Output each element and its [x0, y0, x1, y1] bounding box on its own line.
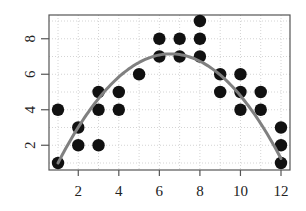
data-point [255, 104, 267, 116]
data-point [214, 86, 226, 98]
x-tick-label: 6 [156, 183, 164, 199]
data-point [113, 86, 125, 98]
y-tick-label: 2 [22, 142, 38, 150]
x-axis: 24681012 [75, 170, 289, 199]
x-tick-label: 4 [115, 183, 123, 199]
data-point [72, 139, 84, 151]
data-point [92, 139, 104, 151]
y-tick-label: 8 [22, 35, 38, 43]
x-tick-label: 10 [233, 183, 248, 199]
data-point [255, 86, 267, 98]
data-point [52, 104, 64, 116]
y-axis: 2468 [22, 35, 49, 149]
data-point [153, 33, 165, 45]
x-tick-label: 8 [196, 183, 204, 199]
data-point [234, 104, 246, 116]
scatter-chart: 24681012 2468 [0, 0, 306, 211]
data-point [194, 15, 206, 27]
fit-curve [58, 54, 281, 163]
data-point [275, 121, 287, 133]
data-point [194, 33, 206, 45]
y-tick-label: 4 [22, 106, 38, 114]
x-tick-label: 12 [274, 183, 289, 199]
data-point [234, 68, 246, 80]
x-tick-label: 2 [75, 183, 83, 199]
grid-lines [49, 15, 290, 170]
data-point [173, 33, 185, 45]
data-point [133, 68, 145, 80]
data-point [113, 104, 125, 116]
y-tick-label: 6 [22, 70, 38, 78]
